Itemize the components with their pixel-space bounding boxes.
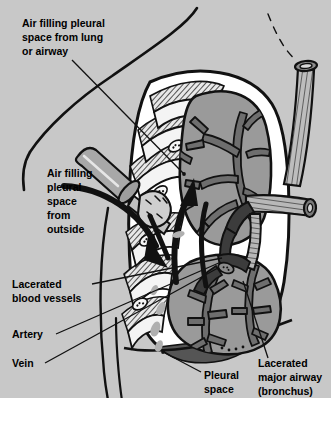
pneumothorax-illustration: Air filling pleural space from lung or a… bbox=[0, 0, 331, 421]
label-artery: Artery bbox=[12, 328, 43, 340]
illustration-canvas: Air filling pleural space from lung or a… bbox=[0, 0, 331, 421]
label-vein: Vein bbox=[12, 357, 34, 369]
